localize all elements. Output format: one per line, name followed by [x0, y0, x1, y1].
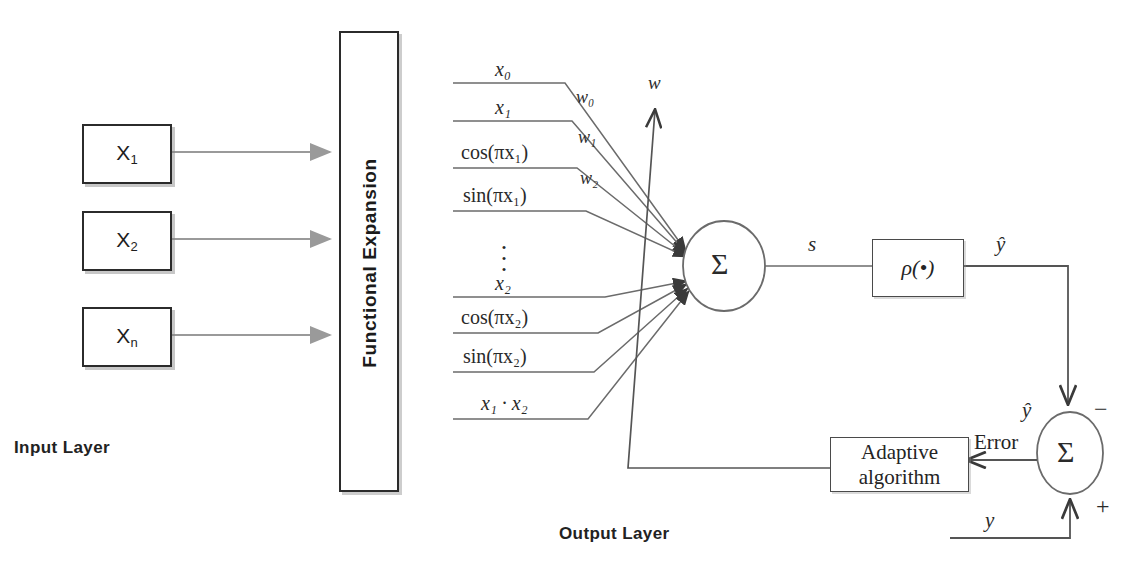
expansion-term-x0: x₀: [495, 58, 511, 81]
input-layer-label: Input Layer: [14, 438, 110, 458]
expansion-term-x2: x₂: [495, 272, 511, 295]
functional-expansion-label: Functional Expansion: [359, 43, 381, 483]
output-layer-label: Output Layer: [559, 524, 670, 544]
expansion-term-cos-pi-x1: cos(πx₁): [461, 141, 528, 164]
expansion-term-cos-pi-x2: cos(πx₂): [461, 306, 528, 329]
weight-label-w1: w₁: [578, 127, 596, 148]
expansion-vertical-dots: ...: [489, 236, 519, 269]
adaptive-algorithm-label: Adaptive algorithm: [859, 440, 941, 490]
expansion-line-x2: [453, 281, 687, 297]
expansion-term-x1-times-x2: x₁ · x₂: [481, 392, 528, 415]
error-signal-label: Error: [974, 430, 1018, 455]
adaptive-algorithm-line2: algorithm: [859, 465, 941, 489]
input-node-x1[interactable]: X1: [82, 124, 172, 184]
adaptive-algorithm-block[interactable]: Adaptive algorithm: [830, 437, 969, 492]
prediction-label-error-node: ŷ: [1022, 398, 1031, 423]
adaptive-algorithm-line1: Adaptive: [861, 440, 938, 464]
activation-block[interactable]: ρ(•): [872, 239, 964, 297]
expansion-term-sin-pi-x1: sin(πx₁): [463, 184, 527, 207]
expansion-term-sin-pi-x2: sin(πx₂): [463, 345, 527, 368]
input-node-x1-label: X1: [116, 141, 137, 167]
input-node-xn[interactable]: Xn: [82, 307, 172, 367]
input-node-xn-label: Xn: [116, 324, 137, 350]
prediction-label-top: ŷ: [996, 232, 1005, 257]
input-node-x2-label: X2: [116, 228, 137, 254]
input-node-x2[interactable]: X2: [82, 211, 172, 271]
weight-label-w2: w₂: [580, 168, 598, 189]
target-input-line: [1029, 500, 1070, 538]
error-node-minus-sign: −: [1094, 396, 1108, 423]
prediction-feedback-line: [962, 266, 1068, 404]
error-node-plus-sign: +: [1096, 493, 1110, 520]
weight-update-label: w: [648, 72, 661, 94]
expansion-term-x1: x₁: [495, 96, 511, 119]
sum-output-label: s: [808, 232, 816, 257]
activation-block-label: ρ(•): [902, 255, 935, 281]
error-node-symbol: Σ: [1057, 435, 1074, 469]
diagram-canvas: X1 X2 Xn Input Layer Functional Expansio…: [0, 0, 1131, 570]
summing-node-symbol: Σ: [711, 247, 728, 281]
weight-label-w0: w₀: [576, 87, 594, 108]
target-label: y: [985, 508, 994, 533]
